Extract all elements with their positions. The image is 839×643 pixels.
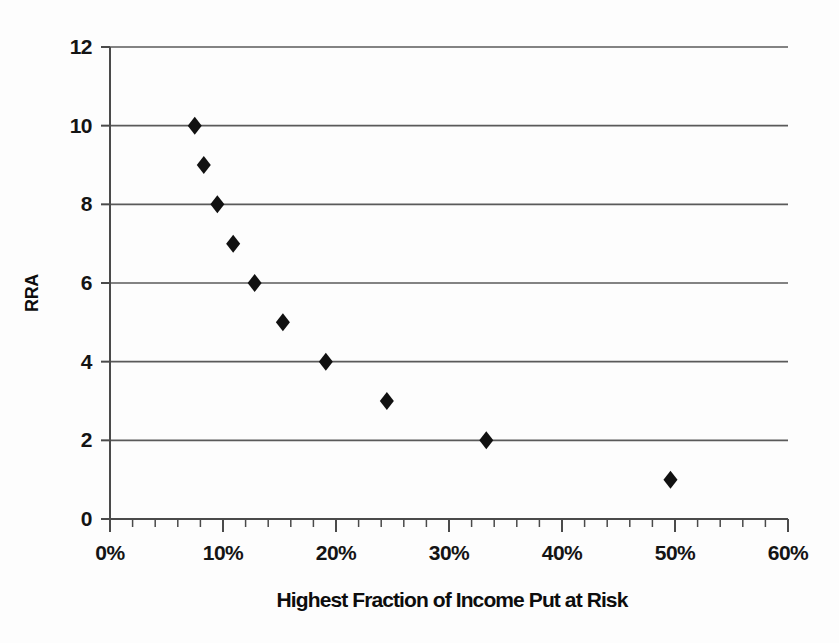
data-point-marker[interactable] [319,353,333,371]
y-axis-tick-label: 12 [70,35,92,59]
y-axis-tick-label: 8 [81,192,92,216]
y-axis-tick-label: 2 [81,428,92,452]
y-axis-title: RRA [22,274,43,312]
x-axis-tick-label: 0% [95,541,124,565]
x-axis-tick-label: 60% [768,541,809,565]
x-tick-marks-group [110,512,788,532]
scatter-chart: 0246810120%10%20%30%40%50%60% Highest Fr… [0,0,839,643]
data-point-marker[interactable] [210,195,224,213]
data-point-marker[interactable] [188,117,202,135]
data-point-marker[interactable] [276,313,290,331]
y-axis-tick-label: 6 [81,271,92,295]
x-axis-tick-label: 30% [429,541,470,565]
x-axis-title: Highest Fraction of Income Put at Risk [277,588,628,612]
data-point-marker[interactable] [248,274,262,292]
y-axis-tick-label: 0 [81,507,92,531]
plot-area [0,0,839,643]
x-axis-tick-label: 20% [316,541,357,565]
y-axis-tick-label: 10 [70,114,92,138]
data-markers-group [188,117,678,489]
data-point-marker[interactable] [663,471,677,489]
data-point-marker[interactable] [380,392,394,410]
x-axis-tick-label: 50% [655,541,696,565]
x-axis-tick-label: 10% [203,541,244,565]
y-axis-tick-label: 4 [81,350,92,374]
data-point-marker[interactable] [197,156,211,174]
data-point-marker[interactable] [226,235,240,253]
x-axis-tick-label: 40% [542,541,583,565]
gridlines-group [110,47,788,440]
data-point-marker[interactable] [479,431,493,449]
y-tick-marks-group [101,47,110,519]
